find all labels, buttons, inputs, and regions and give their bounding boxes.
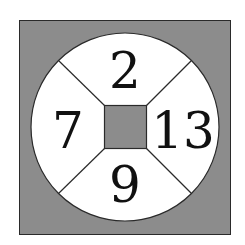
- segment-right-number: 13: [151, 102, 215, 160]
- number-wheel-diagram: 2 7 13 9: [0, 0, 245, 245]
- segment-top-number: 2: [109, 42, 141, 100]
- segment-left-number: 7: [52, 102, 84, 160]
- segment-bottom-number: 9: [109, 156, 141, 214]
- center-shaded-square: [105, 106, 147, 149]
